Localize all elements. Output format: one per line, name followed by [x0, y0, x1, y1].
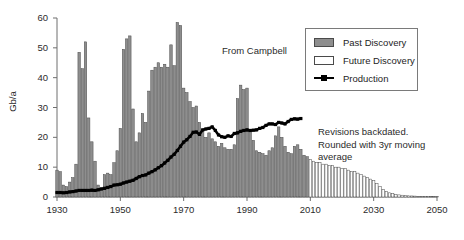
y-tick-label: 30 [24, 102, 48, 113]
production-marker [217, 133, 220, 136]
production-marker [236, 131, 239, 134]
annotation-note: Revisions backdated. Rounded with 3yr mo… [318, 126, 458, 164]
x-tick-label: 2030 [356, 204, 392, 215]
production-line-swatch-icon [314, 74, 334, 83]
production-marker [109, 185, 112, 188]
legend-label-future-discovery: Future Discovery [343, 55, 415, 66]
production-marker [287, 120, 290, 123]
production-marker [65, 191, 68, 194]
bar [271, 148, 273, 197]
production-marker [144, 173, 147, 176]
bar [303, 155, 305, 197]
bar [265, 155, 267, 197]
bar [125, 39, 127, 197]
production-marker [179, 145, 182, 148]
bar [81, 69, 83, 197]
production-marker [268, 122, 271, 125]
bar [319, 163, 321, 197]
bar [417, 196, 419, 197]
production-marker [204, 127, 207, 130]
bar [87, 118, 89, 197]
future-discovery-bars [309, 160, 438, 197]
production-marker [283, 122, 286, 125]
production-marker [131, 179, 134, 182]
production-marker [185, 138, 188, 141]
bar [160, 67, 162, 197]
production-marker [103, 187, 106, 190]
bar [372, 181, 374, 197]
production-marker [90, 189, 93, 192]
bar [274, 136, 276, 197]
bar [312, 161, 314, 197]
bar [414, 196, 416, 197]
production-marker [125, 180, 128, 183]
legend-item-past-discovery: Past Discovery [314, 34, 406, 50]
bar [189, 102, 191, 197]
bar [382, 190, 384, 197]
legend-item-future-discovery: Future Discovery [314, 52, 415, 68]
annotation-note-line-2: Rounded with 3yr moving [318, 139, 458, 152]
production-marker [68, 190, 71, 193]
bar [230, 149, 232, 197]
bar [369, 179, 371, 197]
bar [360, 175, 362, 197]
production-marker [71, 190, 74, 193]
bar [347, 170, 349, 197]
bar [148, 91, 150, 197]
bar [404, 196, 406, 197]
future-discovery-swatch-icon [314, 56, 334, 65]
bar [363, 176, 365, 197]
bar [350, 172, 352, 197]
production-marker [242, 129, 245, 132]
bar [328, 166, 330, 197]
bar [249, 131, 251, 197]
production-marker [198, 133, 201, 136]
bar [429, 196, 431, 197]
bar [132, 109, 134, 197]
y-tick-label: 0 [24, 191, 48, 202]
production-marker [192, 131, 195, 134]
production-marker [261, 126, 264, 129]
legend-label-past-discovery: Past Discovery [343, 37, 406, 48]
production-marker [274, 123, 277, 126]
production-marker [138, 175, 141, 178]
bar [315, 163, 317, 197]
production-marker [100, 187, 103, 190]
production-marker [226, 134, 229, 137]
production-marker [296, 118, 299, 121]
bar [129, 36, 131, 197]
bar [151, 70, 153, 197]
production-marker [154, 168, 157, 171]
y-tick-label: 20 [24, 131, 48, 142]
bar [113, 163, 115, 197]
production-marker [201, 128, 204, 131]
production-marker [74, 189, 77, 192]
bar [290, 154, 292, 197]
bar [201, 130, 203, 197]
bar [154, 67, 156, 197]
bar [186, 93, 188, 197]
production-marker [233, 132, 236, 135]
production-marker [173, 153, 176, 156]
bar [410, 196, 412, 197]
bar [233, 145, 235, 197]
production-marker [160, 164, 163, 167]
production-marker [188, 135, 191, 138]
production-marker [122, 181, 125, 184]
legend-label-production: Production [343, 73, 388, 84]
production-marker [135, 177, 138, 180]
annotation-from-campbell: From Campbell [222, 45, 287, 58]
production-marker [169, 155, 172, 158]
bar [300, 149, 302, 197]
production-marker [223, 136, 226, 139]
x-tick-label: 1970 [166, 204, 202, 215]
x-tick-label: 2010 [292, 204, 328, 215]
production-marker [239, 130, 242, 133]
production-marker [277, 121, 280, 124]
bar [366, 178, 368, 197]
bar [331, 166, 333, 197]
chart-legend: Past Discovery Future Discovery Producti… [305, 28, 418, 91]
production-marker [293, 117, 296, 120]
bar [78, 52, 80, 197]
bar [138, 133, 140, 197]
